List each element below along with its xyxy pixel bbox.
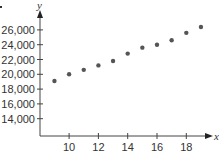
x-tick-label: 18 [180,141,192,153]
data-point [169,38,173,42]
y-tick-label: 14,000 [1,113,35,125]
axes: y x [36,0,219,142]
y-tick-label: 16,000 [1,98,35,110]
y-tick-label: 20,000 [1,68,35,80]
x-tick-label: 12 [92,141,104,153]
x-tick-label: 10 [63,141,75,153]
y-tick-label: 22,000 [1,54,35,66]
y-axis-label: y [36,0,42,11]
corner-mark [0,6,2,8]
data-point [126,51,130,55]
data-point [96,63,100,67]
data-point [140,45,144,49]
data-point [67,72,71,76]
data-point [199,25,203,29]
x-tick-label: 14 [122,141,134,153]
scatter-chart: y x 14,00016,00018,00020,00022,00024,000… [0,0,219,153]
x-axis-label: x [213,130,219,142]
data-point [82,68,86,72]
y-tick-label: 26,000 [1,24,35,36]
data-point [184,31,188,35]
y-axis-arrow-icon [37,10,43,18]
data-point [52,79,56,83]
y-tick-label: 24,000 [1,39,35,51]
data-point [111,59,115,63]
x-tick-label: 16 [151,141,163,153]
data-points [52,25,203,83]
y-tick-label: 18,000 [1,83,35,95]
y-ticks: 14,00016,00018,00020,00022,00024,00026,0… [1,24,43,125]
data-point [155,43,159,47]
x-axis-arrow-icon [205,133,213,139]
